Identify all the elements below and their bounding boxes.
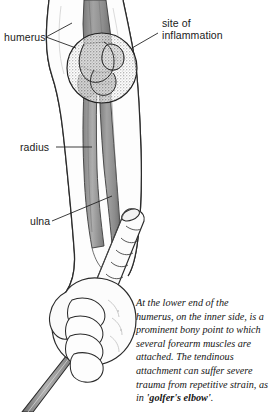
label-humerus: humerus <box>4 32 46 44</box>
caption-line-2: humerus, on the inner side, is a <box>136 311 264 322</box>
label-site-line1: site of <box>162 17 191 29</box>
illustration-page: humerus site ofinflammation radius ulna … <box>0 0 271 412</box>
caption-line-4: several forearm muscles are <box>136 338 251 349</box>
caption-line-3: prominent bony point to which <box>136 324 261 335</box>
caption-line-1: At the lower end of the <box>136 297 229 308</box>
site-of-inflammation-marker <box>67 33 137 103</box>
caption-text: At the lower end of the humerus, on the … <box>136 296 268 405</box>
caption-line-5: attached. The tendinous <box>136 351 234 362</box>
label-site-line2: inflammation <box>162 29 223 41</box>
label-radius: radius <box>20 142 49 154</box>
label-site-of-inflammation: site ofinflammation <box>162 18 223 41</box>
caption-line-6: attachment can suffer severe <box>136 365 252 376</box>
caption-line-8-prefix: in <box>136 392 146 403</box>
caption-line-7: trauma from repetitive strain, as <box>136 379 268 390</box>
caption-line-8-suffix: . <box>211 392 214 403</box>
leader-site-inflammation <box>132 33 158 48</box>
caption-emphasis-golfers-elbow: 'golfer's elbow' <box>146 392 210 403</box>
label-ulna: ulna <box>30 216 50 228</box>
